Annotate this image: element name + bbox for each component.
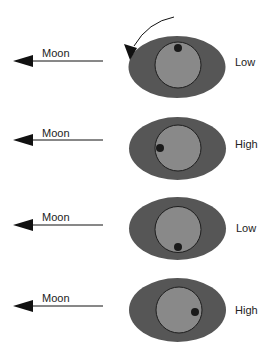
arrowhead-left-icon xyxy=(13,55,33,67)
observer-dot xyxy=(174,44,182,52)
tide-label: High xyxy=(235,304,258,316)
moon-label: Moon xyxy=(42,47,70,59)
observer-dot xyxy=(156,144,164,152)
observer-dot xyxy=(191,308,199,316)
tide-row-4: Moon High xyxy=(13,278,258,342)
moon-direction-arrow: Moon xyxy=(13,127,103,146)
arrowhead-left-icon xyxy=(13,219,33,231)
tide-row-3: Moon Low xyxy=(13,197,256,260)
moon-label: Moon xyxy=(42,211,70,223)
moon-direction-arrow: Moon xyxy=(13,292,103,312)
moon-direction-arrow: Moon xyxy=(13,211,103,231)
tide-label: Low xyxy=(235,56,255,68)
tide-label: High xyxy=(235,138,258,150)
moon-label: Moon xyxy=(42,127,70,139)
arrowhead-left-icon xyxy=(13,134,33,146)
tide-row-1: Moon Low xyxy=(13,17,255,98)
tide-diagram: Moon Low Moon High Moon Low xyxy=(0,0,275,351)
tide-label: Low xyxy=(236,222,256,234)
arrowhead-left-icon xyxy=(13,300,33,312)
observer-dot xyxy=(174,243,182,251)
tide-row-2: Moon High xyxy=(13,117,258,180)
moon-label: Moon xyxy=(42,292,70,304)
moon-direction-arrow: Moon xyxy=(13,47,103,67)
